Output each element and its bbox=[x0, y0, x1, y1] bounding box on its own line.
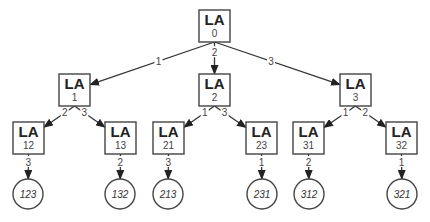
edge-arrow bbox=[44, 106, 75, 127]
edge-label: 2 bbox=[306, 157, 312, 168]
node-title: LA bbox=[111, 123, 131, 140]
edge-0-3: 3 bbox=[215, 42, 341, 85]
node-id: 21 bbox=[163, 140, 175, 151]
edge-23-231: 1 bbox=[258, 154, 266, 179]
edge-0-2: 2 bbox=[211, 42, 219, 74]
node-box-31: LA31 bbox=[293, 122, 324, 154]
node-id: 1 bbox=[72, 92, 78, 103]
node-title: LA bbox=[19, 123, 39, 140]
edge-21-213: 3 bbox=[164, 154, 172, 179]
leaf-node-231: 231 bbox=[247, 179, 277, 209]
edge-label: 1 bbox=[343, 107, 349, 118]
node-id: 32 bbox=[396, 140, 408, 151]
node-box-1: LA1 bbox=[59, 74, 90, 106]
edge-arrow bbox=[215, 42, 341, 85]
node-id: 13 bbox=[115, 140, 127, 151]
edge-arrow bbox=[75, 106, 106, 127]
edge-32-321: 1 bbox=[398, 154, 406, 179]
edge-12-123: 3 bbox=[24, 154, 32, 179]
node-box-2: LA2 bbox=[199, 74, 230, 106]
edge-label: 2 bbox=[62, 107, 68, 118]
edge-0-1: 1 bbox=[90, 42, 215, 85]
node-box-32: LA32 bbox=[386, 122, 417, 154]
edge-label: 1 bbox=[399, 157, 405, 168]
leaf-label: 123 bbox=[20, 189, 37, 200]
edge-label: 1 bbox=[156, 56, 162, 67]
edge-label: 1 bbox=[202, 107, 208, 118]
node-title: LA bbox=[205, 75, 225, 92]
edge-label: 3 bbox=[222, 107, 228, 118]
edge-label: 3 bbox=[166, 157, 172, 168]
leaf-label: 231 bbox=[253, 189, 271, 200]
edge-label: 1 bbox=[259, 157, 265, 168]
node-box-13: LA13 bbox=[105, 122, 136, 154]
leaf-label: 213 bbox=[159, 189, 177, 200]
leaf-node-132: 132 bbox=[105, 179, 135, 209]
edge-label: 3 bbox=[81, 107, 87, 118]
leaf-label: 312 bbox=[301, 189, 318, 200]
leaf-node-123: 123 bbox=[13, 179, 43, 209]
edge-label: 3 bbox=[26, 157, 32, 168]
leaf-node-321: 321 bbox=[387, 179, 417, 209]
edges-layer: 123231312323121 bbox=[24, 42, 405, 179]
node-box-3: LA3 bbox=[340, 74, 371, 106]
node-title: LA bbox=[346, 75, 366, 92]
edge-13-132: 2 bbox=[116, 154, 124, 179]
edge-1-12: 2 bbox=[44, 106, 75, 127]
node-box-12: LA12 bbox=[13, 122, 44, 154]
node-box-0: LA0 bbox=[199, 10, 230, 42]
edge-arrow bbox=[184, 106, 215, 127]
edge-arrow bbox=[90, 42, 215, 85]
node-id: 0 bbox=[212, 28, 218, 39]
node-id: 12 bbox=[23, 140, 35, 151]
edge-label: 2 bbox=[118, 157, 124, 168]
edge-3-31: 1 bbox=[324, 106, 356, 127]
edge-2-21: 1 bbox=[184, 106, 215, 127]
node-id: 31 bbox=[303, 140, 315, 151]
node-title: LA bbox=[159, 123, 179, 140]
edge-label: 2 bbox=[362, 107, 368, 118]
edge-2-23: 3 bbox=[215, 106, 247, 127]
leaf-label: 321 bbox=[394, 189, 411, 200]
node-title: LA bbox=[65, 75, 85, 92]
node-title: LA bbox=[205, 11, 225, 28]
edge-31-312: 2 bbox=[305, 154, 313, 179]
permutation-tree-diagram: 123231312323121 LA0LA1LA2LA3LA12LA13LA21… bbox=[0, 0, 430, 222]
node-id: 23 bbox=[256, 140, 268, 151]
leaf-node-312: 312 bbox=[294, 179, 324, 209]
leaf-label: 132 bbox=[112, 189, 129, 200]
node-title: LA bbox=[392, 123, 412, 140]
leaf-node-213: 213 bbox=[153, 179, 183, 209]
edge-arrow bbox=[324, 106, 356, 127]
node-title: LA bbox=[252, 123, 272, 140]
node-id: 2 bbox=[212, 92, 218, 103]
node-id: 3 bbox=[353, 92, 359, 103]
edge-label: 2 bbox=[212, 47, 218, 58]
node-box-23: LA23 bbox=[246, 122, 277, 154]
edge-label: 3 bbox=[268, 56, 274, 67]
edge-arrow bbox=[356, 106, 387, 127]
node-title: LA bbox=[299, 123, 319, 140]
node-box-21: LA21 bbox=[153, 122, 184, 154]
nodes-layer: LA0LA1LA2LA3LA12LA13LA21LA23LA31LA321231… bbox=[13, 10, 417, 209]
edge-arrow bbox=[215, 106, 247, 127]
edge-1-13: 3 bbox=[75, 106, 106, 127]
edge-3-32: 2 bbox=[356, 106, 387, 127]
